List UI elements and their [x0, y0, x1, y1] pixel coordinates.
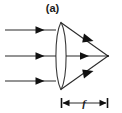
dimension-right-arrowhead [100, 100, 107, 106]
refracted-ray-group [62, 23, 109, 89]
optics-figure-panel-a: (a) [0, 0, 122, 113]
biconvex-lens [56, 22, 66, 90]
lens-right-surface [61, 22, 66, 90]
lower-converging-ray-arrowhead [82, 70, 93, 79]
dimension-left-arrowhead [63, 100, 70, 106]
axial-parallel-ray-arrowhead [36, 52, 45, 59]
upper-converging-ray-arrowhead [82, 34, 93, 43]
lens-left-surface [56, 22, 61, 90]
lower-parallel-ray-arrowhead [36, 77, 45, 84]
incoming-ray-group [5, 26, 56, 84]
ray-diagram: f [0, 0, 122, 113]
upper-parallel-ray-arrowhead [36, 26, 45, 33]
focal-point [107, 55, 109, 57]
axial-refracted-ray-arrowhead [80, 52, 89, 59]
focal-length-dimension: f [62, 97, 108, 109]
